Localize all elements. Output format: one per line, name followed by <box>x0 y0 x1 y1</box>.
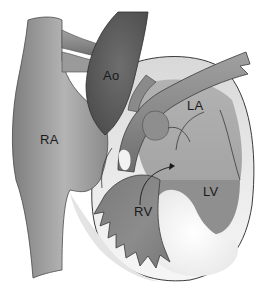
label-right-atrium: RA <box>40 133 59 146</box>
heart-illustration <box>0 0 259 290</box>
valve-bulge <box>143 111 169 140</box>
label-aorta: Ao <box>103 69 120 82</box>
heart-diagram: RA Ao LA LV RV <box>0 0 259 290</box>
label-left-atrium: LA <box>187 99 204 112</box>
label-right-ventricle: RV <box>134 205 152 218</box>
pulmonary-branch-lower <box>62 52 92 72</box>
label-left-ventricle: LV <box>203 185 219 198</box>
